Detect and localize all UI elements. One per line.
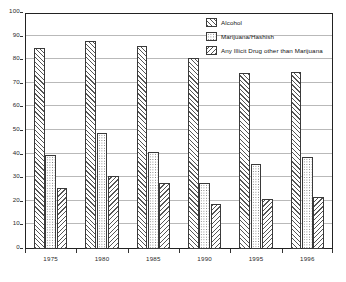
bar xyxy=(211,204,222,249)
x-tick-label: 1985 xyxy=(146,255,161,262)
bar xyxy=(239,73,250,249)
bar xyxy=(85,41,96,249)
bar xyxy=(159,183,170,249)
bar xyxy=(97,133,108,249)
legend-label: Alcohol xyxy=(221,19,242,26)
x-tick-mark xyxy=(230,249,231,253)
y-tick-mark xyxy=(20,36,23,37)
y-tick-mark xyxy=(20,177,23,178)
bar xyxy=(302,157,313,249)
x-tick-mark xyxy=(332,249,333,253)
legend-item: Alcohol xyxy=(206,15,334,29)
x-tick-mark xyxy=(179,249,180,253)
x-tick-label: 1996 xyxy=(300,255,315,262)
bar xyxy=(251,164,262,249)
x-tick-mark xyxy=(76,249,77,253)
x-tick-label: 1990 xyxy=(197,255,212,262)
bar xyxy=(34,48,45,249)
bar xyxy=(188,58,199,249)
legend-label: Marijuana/Hashish xyxy=(221,33,274,40)
y-tick-label: 100 xyxy=(9,7,20,14)
legend: AlcoholMarijuana/HashishAny Illicit Drug… xyxy=(206,15,334,57)
legend-item: Marijuana/Hashish xyxy=(206,29,334,43)
y-tick-mark xyxy=(20,130,23,131)
bar xyxy=(45,155,56,249)
x-tick-label: 1995 xyxy=(249,255,264,262)
bar xyxy=(313,197,324,249)
bar xyxy=(108,176,119,249)
y-tick-mark xyxy=(20,201,23,202)
y-tick-mark xyxy=(20,106,23,107)
x-tick-label: 1975 xyxy=(43,255,58,262)
x-axis: 197519801985199019951996 xyxy=(25,255,333,269)
legend-item: Any Illicit Drug other than Marijuana xyxy=(206,43,334,57)
bar xyxy=(291,72,302,249)
y-tick-label: 60 xyxy=(13,101,20,108)
y-tick-mark xyxy=(20,59,23,60)
legend-swatch-icon xyxy=(206,46,217,55)
bar xyxy=(137,46,148,249)
x-tick-label: 1980 xyxy=(95,255,110,262)
x-axis-ticks xyxy=(25,249,333,254)
bar xyxy=(148,152,159,249)
bar xyxy=(262,199,273,249)
y-tick-label: 50 xyxy=(13,125,20,132)
y-tick-label: 40 xyxy=(13,148,20,155)
y-tick-label: 30 xyxy=(13,172,20,179)
legend-swatch-icon xyxy=(206,18,217,27)
y-tick-label: 70 xyxy=(13,77,20,84)
bar xyxy=(57,188,68,249)
y-tick-label: 10 xyxy=(13,219,20,226)
x-tick-mark xyxy=(128,249,129,253)
y-tick-label: 90 xyxy=(13,30,20,37)
y-tick-label: 80 xyxy=(13,54,20,61)
x-tick-mark xyxy=(25,249,26,253)
y-tick-label: 20 xyxy=(13,195,20,202)
legend-label: Any Illicit Drug other than Marijuana xyxy=(221,47,323,54)
bar-chart: 0102030405060708090100 19751980198519901… xyxy=(0,0,346,282)
x-tick-mark xyxy=(282,249,283,253)
y-tick-mark xyxy=(20,224,23,225)
y-tick-mark xyxy=(20,83,23,84)
bar xyxy=(199,183,210,249)
y-tick-mark xyxy=(20,248,23,249)
y-tick-mark xyxy=(20,12,23,13)
legend-swatch-icon xyxy=(206,32,217,41)
y-tick-mark xyxy=(20,154,23,155)
y-axis: 0102030405060708090100 xyxy=(0,13,23,249)
